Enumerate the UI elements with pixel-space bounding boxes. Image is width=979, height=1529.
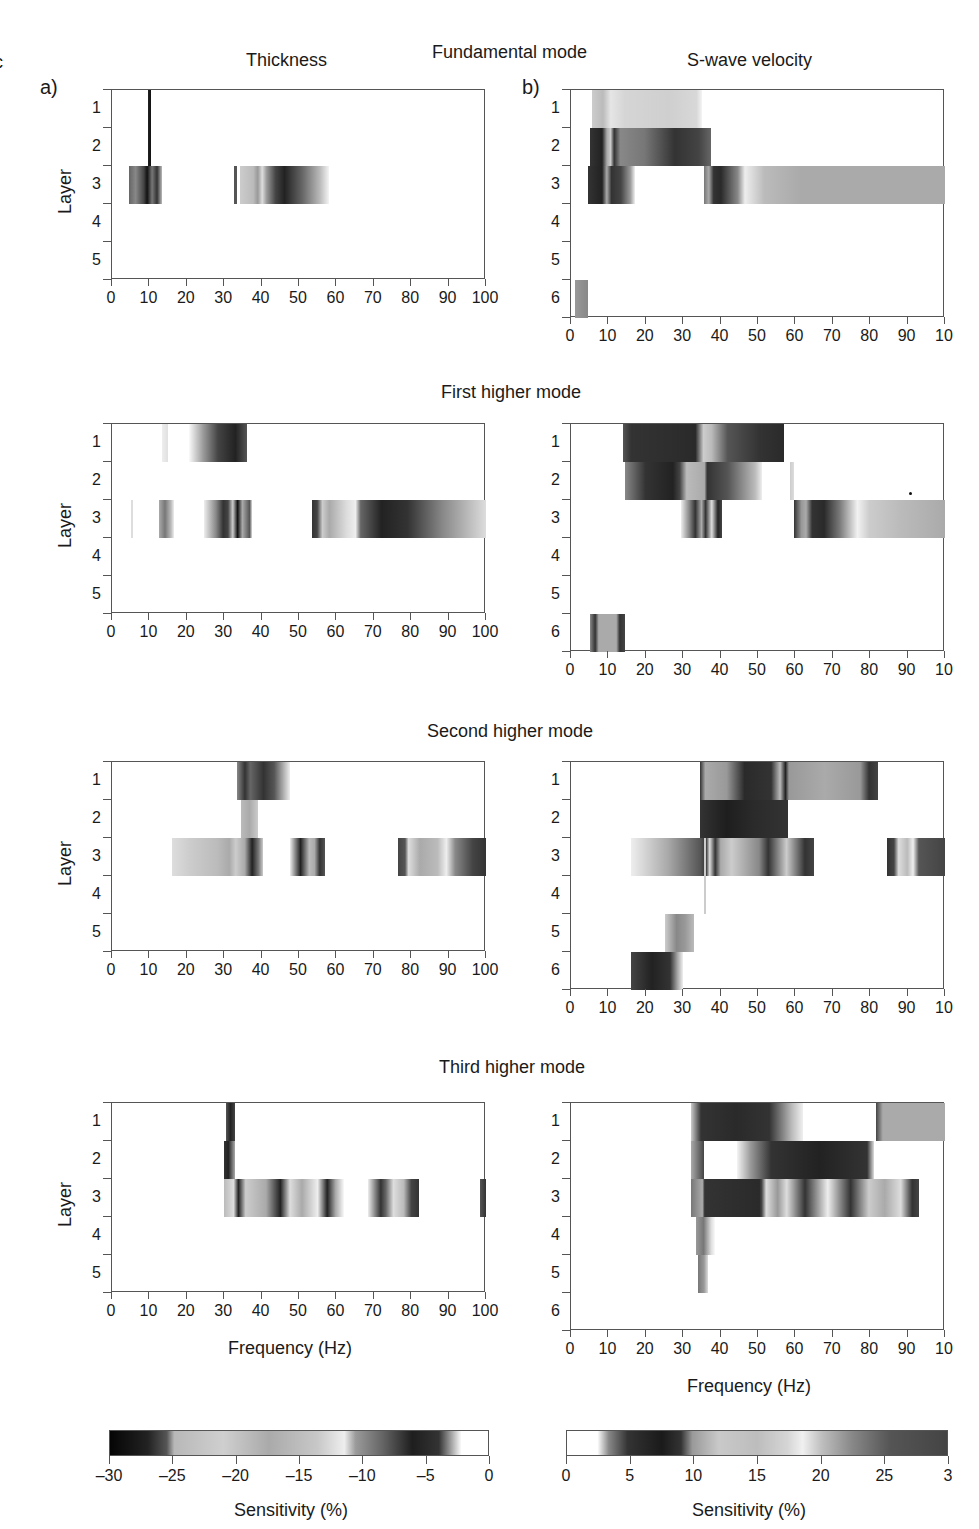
x-tick-label: 30 [203, 289, 243, 307]
x-tick [794, 651, 795, 658]
y-tick [103, 799, 111, 800]
x-tick-label: 20 [166, 961, 206, 979]
y-tick [562, 1140, 570, 1141]
x-tick-label: 50 [737, 661, 777, 679]
y-tick-label: 3 [540, 509, 560, 527]
panel-label-a: a) [40, 76, 58, 99]
x-tick-label: 50 [278, 289, 318, 307]
y-tick [103, 951, 111, 952]
sensitivity-band [290, 838, 326, 876]
mode-title: Third higher mode [439, 1057, 585, 1078]
colorbar-tick [693, 1456, 694, 1464]
y-tick-label: 1 [81, 1112, 101, 1130]
x-tick [645, 989, 646, 996]
sensitivity-band [698, 1255, 707, 1293]
x-tick [485, 951, 486, 958]
colorbar-tick [426, 1456, 427, 1464]
y-tick-label: 2 [540, 137, 560, 155]
y-tick [103, 537, 111, 538]
x-tick [907, 1330, 908, 1337]
x-tick [485, 279, 486, 286]
x-tick-label: 70 [812, 661, 852, 679]
thickness-plot [111, 1102, 485, 1292]
x-tick-label: 20 [625, 661, 665, 679]
x-tick [645, 651, 646, 658]
panel-label-b: b) [522, 76, 540, 99]
x-tick [869, 989, 870, 996]
x-tick [570, 989, 571, 996]
x-tick-label: 80 [849, 327, 889, 345]
sensitivity-band [625, 462, 762, 500]
colorbar-tick [948, 1456, 949, 1464]
y-tick [562, 537, 570, 538]
x-tick-label: 90 [887, 661, 927, 679]
x-tick-label: 0 [91, 1302, 131, 1320]
colorbar-tick [489, 1456, 490, 1464]
x-tick-label: 70 [812, 327, 852, 345]
x-tick-label: 80 [390, 289, 430, 307]
x-tick-label: 60 [774, 661, 814, 679]
x-tick-label: 10 [128, 289, 168, 307]
y-tick-label: 5 [540, 1264, 560, 1282]
colorbar-tick [109, 1456, 110, 1464]
y-tick-label: 4 [540, 885, 560, 903]
column-title-vs: S-wave velocity [687, 50, 812, 71]
vs-plot [570, 89, 944, 317]
x-tick [682, 651, 683, 658]
colorbar-tick-label: –20 [216, 1467, 256, 1485]
x-tick-label: 90 [428, 1302, 468, 1320]
x-tick [186, 613, 187, 620]
x-tick-label: 10 [587, 1340, 627, 1358]
y-tick [562, 875, 570, 876]
x-tick-label: 30 [203, 1302, 243, 1320]
colorbar-tick [362, 1456, 363, 1464]
sensitivity-band [162, 424, 168, 462]
x-tick [261, 279, 262, 286]
y-tick-label: 5 [81, 1264, 101, 1282]
x-tick-label: 30 [662, 661, 702, 679]
sensitivity-band [876, 1103, 945, 1141]
x-tick [335, 951, 336, 958]
colorbar-tick [566, 1456, 567, 1464]
y-tick [103, 461, 111, 462]
x-tick [223, 951, 224, 958]
x-tick [869, 1330, 870, 1337]
x-tick [111, 951, 112, 958]
x-tick-label: 10 [128, 623, 168, 641]
y-tick [103, 575, 111, 576]
x-tick-label: 70 [353, 1302, 393, 1320]
x-tick-label: 30 [203, 623, 243, 641]
y-tick [562, 165, 570, 166]
x-tick [907, 651, 908, 658]
x-tick-label: 60 [315, 1302, 355, 1320]
sensitivity-band [590, 128, 712, 166]
y-tick [562, 651, 570, 652]
x-tick [373, 1292, 374, 1299]
sensitivity-band [588, 166, 635, 204]
y-tick [562, 913, 570, 914]
x-tick-label: 100 [465, 623, 505, 641]
y-tick [103, 203, 111, 204]
y-tick [562, 317, 570, 318]
x-tick-label: 20 [625, 1340, 665, 1358]
x-tick-label: 100 [465, 1302, 505, 1320]
x-tick [448, 951, 449, 958]
x-tick-label: 20 [625, 327, 665, 345]
x-tick [720, 989, 721, 996]
x-tick [794, 989, 795, 996]
x-tick-label: 10 [924, 999, 964, 1017]
colorbar-tick-label: –25 [152, 1467, 192, 1485]
y-tick [562, 837, 570, 838]
sensitivity-band [172, 838, 264, 876]
x-tick [148, 1292, 149, 1299]
y-tick [103, 165, 111, 166]
x-tick [111, 279, 112, 286]
x-tick [448, 1292, 449, 1299]
x-tick-label: 60 [315, 623, 355, 641]
x-tick [869, 651, 870, 658]
y-tick-label: 6 [540, 289, 560, 307]
x-tick-label: 10 [924, 661, 964, 679]
sensitivity-band [704, 838, 706, 914]
x-tick-label: 90 [428, 961, 468, 979]
x-tick [373, 951, 374, 958]
